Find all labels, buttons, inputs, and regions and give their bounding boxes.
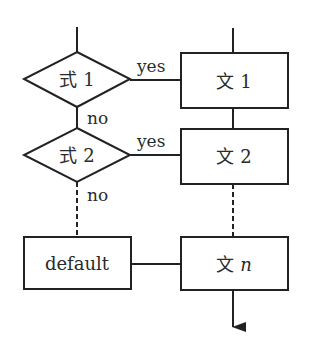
statement-2-label: 文 2 bbox=[216, 146, 251, 167]
statement-1-label: 文 1 bbox=[216, 71, 251, 92]
statement-2-box: 文 2 bbox=[181, 129, 288, 184]
no-label-2: no bbox=[87, 185, 108, 205]
condition-1-diamond: 式 1 bbox=[24, 52, 130, 107]
condition-2-label: 式 2 bbox=[59, 145, 94, 166]
statement-n-label: 文n bbox=[216, 254, 252, 275]
statement-n-box: 文n bbox=[181, 237, 288, 290]
default-label: default bbox=[45, 253, 110, 274]
condition-2-diamond: 式 2 bbox=[24, 128, 130, 182]
flowchart-canvas: 式 1 yes no 式 2 yes no default 文 1 文 2 文n bbox=[0, 0, 315, 338]
yes-label-2: yes bbox=[136, 131, 165, 151]
yes-label-1: yes bbox=[136, 56, 165, 76]
no-label-1: no bbox=[87, 108, 108, 128]
default-box: default bbox=[24, 237, 131, 289]
condition-1-label: 式 1 bbox=[59, 69, 94, 90]
statement-1-box: 文 1 bbox=[181, 53, 288, 108]
